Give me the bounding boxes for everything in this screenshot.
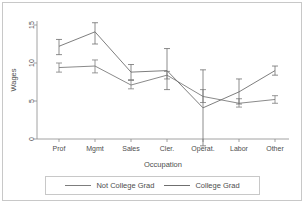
y-tick-label: 0 <box>28 137 35 141</box>
y-tick-label: 15 <box>28 21 35 29</box>
legend-item-college-grad: College Grad <box>164 181 239 190</box>
x-tick-label: Prof <box>53 145 66 152</box>
legend-swatch-not-college-grad <box>65 185 91 186</box>
y-tick-label: 10 <box>28 59 35 67</box>
x-tick-label: Labor <box>230 145 249 152</box>
y-tick-label: 5 <box>28 99 35 103</box>
chart-legend: Not College Grad College Grad <box>45 176 260 195</box>
legend-label-not-college-grad: Not College Grad <box>96 181 154 190</box>
x-tick-label: Mgmt <box>86 145 104 153</box>
y-axis-title: Wages <box>9 68 18 91</box>
x-axis-title: Occupation <box>144 160 182 169</box>
legend-label-college-grad: College Grad <box>195 181 239 190</box>
x-axis-ticks: ProfMgmtSalesCler.Operat.LaborOther <box>53 139 285 153</box>
x-tick-label: Sales <box>122 145 140 152</box>
chart-screenshot: 051015 ProfMgmtSalesCler.Operat.LaborOth… <box>0 0 304 203</box>
data-series-group <box>56 23 278 146</box>
line-chart-plot: 051015 ProfMgmtSalesCler.Operat.LaborOth… <box>3 3 301 200</box>
legend-item-not-college-grad: Not College Grad <box>65 181 154 190</box>
x-tick-label: Other <box>266 145 284 152</box>
y-axis-ticks: 051015 <box>28 21 38 141</box>
x-tick-label: Cler. <box>160 145 174 152</box>
graph-frame: 051015 ProfMgmtSalesCler.Operat.LaborOth… <box>2 2 302 201</box>
legend-swatch-college-grad <box>164 185 190 186</box>
